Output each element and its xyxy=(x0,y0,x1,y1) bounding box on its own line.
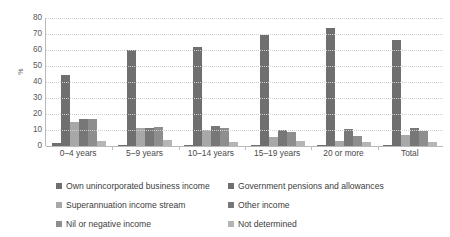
bar xyxy=(88,119,97,146)
legend-item[interactable]: Superannuation income stream xyxy=(56,195,228,214)
bar xyxy=(278,130,287,146)
bar xyxy=(269,137,278,146)
y-axis-tick: 0 xyxy=(20,142,42,150)
bar xyxy=(145,128,154,146)
legend-item[interactable]: Government pensions and allowances xyxy=(228,176,444,195)
y-axis-tick: 70 xyxy=(20,30,42,38)
gridline xyxy=(46,50,443,51)
x-axis-tick: 5–9 years xyxy=(111,148,177,164)
chart-legend: Own unincorporated business incomeGovern… xyxy=(56,176,444,234)
legend-label: Nil or negative income xyxy=(66,219,151,229)
legend-swatch-icon xyxy=(56,221,62,227)
bar xyxy=(193,47,202,146)
legend-label: Not determined xyxy=(238,219,297,229)
legend-item[interactable]: Not determined xyxy=(228,214,444,233)
x-axis-tick: 15–19 years xyxy=(244,148,310,164)
bar xyxy=(70,122,79,146)
gridline xyxy=(46,98,443,99)
gridline xyxy=(46,130,443,131)
y-axis-tick: 10 xyxy=(20,126,42,134)
y-axis-tick: 20 xyxy=(20,110,42,118)
bar xyxy=(419,131,428,146)
bar xyxy=(61,75,70,146)
legend-label: Superannuation income stream xyxy=(66,200,185,210)
x-axis-tick: 20 or more xyxy=(310,148,376,164)
y-axis-tick: 80 xyxy=(20,14,42,22)
bar xyxy=(344,129,353,146)
legend-swatch-icon xyxy=(228,183,234,189)
bar xyxy=(220,128,229,146)
gridline xyxy=(46,114,443,115)
x-axis-tick-labels: 0–4 years5–9 years10–14 years15–19 years… xyxy=(45,148,443,164)
bar-chart: % 01020304050607080 0–4 years5–9 years10… xyxy=(0,0,450,237)
gridline xyxy=(46,34,443,35)
bar xyxy=(353,136,362,146)
legend-label: Government pensions and allowances xyxy=(238,181,384,191)
y-axis-tick: 30 xyxy=(20,94,42,102)
legend-swatch-icon xyxy=(56,202,62,208)
y-axis-tick: 60 xyxy=(20,46,42,54)
bar xyxy=(202,130,211,146)
legend-item[interactable]: Nil or negative income xyxy=(56,214,228,233)
gridline xyxy=(46,82,443,83)
x-axis-tick: Total xyxy=(377,148,443,164)
bar xyxy=(326,28,335,146)
y-axis-tick-labels: 01020304050607080 xyxy=(20,18,42,146)
plot-area xyxy=(45,18,443,146)
gridline xyxy=(46,66,443,67)
x-axis-tick: 0–4 years xyxy=(45,148,111,164)
y-axis-tick: 50 xyxy=(20,62,42,70)
plot-area-wrapper: % 01020304050607080 0–4 years5–9 years10… xyxy=(0,0,450,168)
legend-swatch-icon xyxy=(228,202,234,208)
bar xyxy=(79,119,88,146)
legend-swatch-icon xyxy=(56,183,62,189)
y-axis-tick: 40 xyxy=(20,78,42,86)
bar xyxy=(287,132,296,146)
legend-item[interactable]: Other income xyxy=(228,195,444,214)
gridline xyxy=(46,18,443,19)
legend-swatch-icon xyxy=(228,221,234,227)
legend-label: Own unincorporated business income xyxy=(66,181,210,191)
legend-item[interactable]: Own unincorporated business income xyxy=(56,176,228,195)
bar xyxy=(211,126,220,146)
legend-label: Other income xyxy=(238,200,290,210)
bar xyxy=(401,135,410,146)
x-axis-tick: 10–14 years xyxy=(178,148,244,164)
